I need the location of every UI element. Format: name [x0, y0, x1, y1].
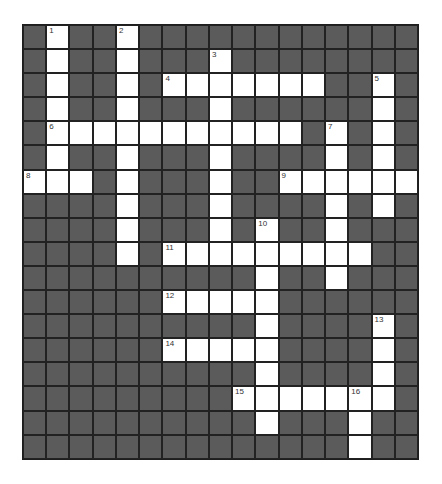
block-cell: [279, 435, 302, 459]
crossword-cell[interactable]: [232, 73, 255, 97]
crossword-cell[interactable]: [279, 386, 302, 410]
crossword-cell[interactable]: [302, 73, 325, 97]
crossword-cell[interactable]: [46, 97, 69, 121]
block-cell: [232, 194, 255, 218]
crossword-cell[interactable]: [46, 145, 69, 169]
crossword-cell[interactable]: [116, 97, 139, 121]
crossword-cell[interactable]: [186, 121, 209, 145]
crossword-cell[interactable]: 10: [255, 218, 278, 242]
crossword-cell[interactable]: [279, 242, 302, 266]
crossword-cell[interactable]: [209, 97, 232, 121]
crossword-cell[interactable]: 8: [23, 170, 46, 194]
crossword-cell[interactable]: [255, 73, 278, 97]
crossword-cell[interactable]: [116, 49, 139, 73]
crossword-cell[interactable]: [209, 73, 232, 97]
block-cell: [279, 218, 302, 242]
crossword-cell[interactable]: [232, 290, 255, 314]
crossword-cell[interactable]: [186, 242, 209, 266]
crossword-cell[interactable]: [302, 242, 325, 266]
crossword-cell[interactable]: [348, 170, 371, 194]
crossword-cell[interactable]: [116, 121, 139, 145]
crossword-cell[interactable]: [395, 170, 418, 194]
crossword-cell[interactable]: 1: [46, 25, 69, 49]
crossword-cell[interactable]: [162, 121, 185, 145]
crossword-cell[interactable]: 6: [46, 121, 69, 145]
crossword-cell[interactable]: [325, 145, 348, 169]
crossword-cell[interactable]: 2: [116, 25, 139, 49]
crossword-cell[interactable]: [186, 290, 209, 314]
crossword-cell[interactable]: [232, 338, 255, 362]
crossword-cell[interactable]: [255, 314, 278, 338]
crossword-cell[interactable]: [69, 121, 92, 145]
crossword-cell[interactable]: [279, 73, 302, 97]
crossword-cell[interactable]: 15: [232, 386, 255, 410]
crossword-cell[interactable]: [372, 338, 395, 362]
crossword-cell[interactable]: [325, 194, 348, 218]
crossword-cell[interactable]: [255, 411, 278, 435]
crossword-cell[interactable]: [325, 218, 348, 242]
crossword-cell[interactable]: [209, 218, 232, 242]
crossword-cell[interactable]: 9: [279, 170, 302, 194]
crossword-cell[interactable]: [255, 290, 278, 314]
crossword-cell[interactable]: [325, 170, 348, 194]
crossword-cell[interactable]: [209, 242, 232, 266]
crossword-cell[interactable]: 7: [325, 121, 348, 145]
crossword-cell[interactable]: [186, 73, 209, 97]
crossword-cell[interactable]: [372, 170, 395, 194]
crossword-cell[interactable]: [302, 386, 325, 410]
crossword-cell[interactable]: [325, 266, 348, 290]
crossword-cell[interactable]: [255, 386, 278, 410]
block-cell: [279, 194, 302, 218]
crossword-cell[interactable]: [116, 73, 139, 97]
crossword-cell[interactable]: [255, 121, 278, 145]
crossword-cell[interactable]: [209, 194, 232, 218]
crossword-cell[interactable]: [348, 242, 371, 266]
crossword-cell[interactable]: [255, 266, 278, 290]
crossword-cell[interactable]: [372, 386, 395, 410]
crossword-cell[interactable]: [372, 97, 395, 121]
crossword-cell[interactable]: [302, 170, 325, 194]
crossword-cell[interactable]: [209, 338, 232, 362]
crossword-cell[interactable]: [372, 362, 395, 386]
crossword-cell[interactable]: [46, 170, 69, 194]
crossword-cell[interactable]: [116, 145, 139, 169]
crossword-cell[interactable]: [209, 121, 232, 145]
crossword-cell[interactable]: [116, 218, 139, 242]
crossword-cell[interactable]: [372, 145, 395, 169]
crossword-cell[interactable]: [325, 242, 348, 266]
crossword-cell[interactable]: [116, 242, 139, 266]
crossword-cell[interactable]: [255, 362, 278, 386]
block-cell: [302, 314, 325, 338]
crossword-cell[interactable]: [255, 242, 278, 266]
crossword-cell[interactable]: [209, 290, 232, 314]
crossword-cell[interactable]: [325, 386, 348, 410]
crossword-cell[interactable]: [186, 338, 209, 362]
crossword-cell[interactable]: [348, 435, 371, 459]
crossword-cell[interactable]: [255, 338, 278, 362]
crossword-cell[interactable]: 16: [348, 386, 371, 410]
crossword-cell[interactable]: [209, 145, 232, 169]
crossword-cell[interactable]: [232, 121, 255, 145]
crossword-cell[interactable]: [232, 242, 255, 266]
crossword-cell[interactable]: [46, 49, 69, 73]
crossword-cell[interactable]: 5: [372, 73, 395, 97]
crossword-cell[interactable]: 3: [209, 49, 232, 73]
crossword-cell[interactable]: [46, 73, 69, 97]
crossword-cell[interactable]: [69, 170, 92, 194]
crossword-cell[interactable]: 12: [162, 290, 185, 314]
crossword-cell[interactable]: [209, 170, 232, 194]
crossword-cell[interactable]: [139, 121, 162, 145]
crossword-cell[interactable]: [116, 170, 139, 194]
crossword-cell[interactable]: [372, 194, 395, 218]
block-cell: [255, 194, 278, 218]
crossword-cell[interactable]: [279, 121, 302, 145]
crossword-cell[interactable]: 4: [162, 73, 185, 97]
block-cell: [93, 49, 116, 73]
crossword-cell[interactable]: [348, 411, 371, 435]
crossword-cell[interactable]: 11: [162, 242, 185, 266]
crossword-cell[interactable]: [116, 194, 139, 218]
crossword-cell[interactable]: 13: [372, 314, 395, 338]
crossword-cell[interactable]: [93, 121, 116, 145]
crossword-cell[interactable]: [372, 121, 395, 145]
crossword-cell[interactable]: 14: [162, 338, 185, 362]
